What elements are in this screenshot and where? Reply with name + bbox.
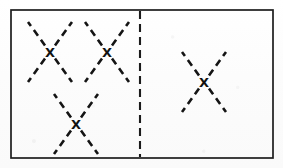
arm-lower-right <box>81 131 98 155</box>
arm-upper-right <box>81 94 98 118</box>
arm-upper-left <box>54 94 71 118</box>
centromere-x-glyph: X <box>71 117 81 132</box>
x-shapes-layer: XXXX <box>28 22 226 154</box>
centromere-x-glyph: X <box>102 45 112 60</box>
outer-rectangle-frame <box>11 10 273 158</box>
arm-upper-left <box>182 52 199 76</box>
x-figure: X <box>28 22 72 82</box>
arm-lower-left <box>182 89 199 113</box>
arm-upper-right <box>112 22 129 46</box>
centromere-x-glyph: X <box>45 45 55 60</box>
arm-lower-right <box>55 59 72 83</box>
figure-svg: XXXX <box>0 0 283 168</box>
centromere-x-glyph: X <box>199 75 209 90</box>
arm-upper-right <box>209 52 226 76</box>
arm-lower-right <box>112 59 129 83</box>
arm-lower-left <box>54 131 71 155</box>
arm-upper-left <box>85 22 102 46</box>
x-figure: X <box>54 94 98 154</box>
arm-upper-right <box>55 22 72 46</box>
diagram-canvas: XXXX <box>0 0 283 168</box>
arm-upper-left <box>28 22 45 46</box>
x-figure: X <box>182 52 226 112</box>
x-figure: X <box>85 22 129 82</box>
arm-lower-left <box>85 59 102 83</box>
arm-lower-right <box>209 89 226 113</box>
arm-lower-left <box>28 59 45 83</box>
